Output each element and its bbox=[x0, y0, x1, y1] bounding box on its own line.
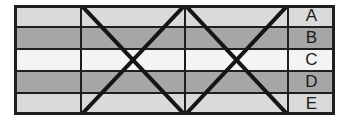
band-fill-layer bbox=[14, 5, 335, 115]
band-label-c: C bbox=[305, 50, 317, 69]
band-label-a: A bbox=[306, 6, 318, 25]
band-c bbox=[14, 49, 335, 71]
band-b bbox=[14, 27, 335, 49]
band-d bbox=[14, 71, 335, 93]
band-label-d: D bbox=[305, 72, 317, 91]
diagram-canvas: ABCDE bbox=[0, 0, 349, 121]
diagram-svg: ABCDE bbox=[14, 5, 335, 115]
band-label-b: B bbox=[306, 28, 317, 47]
banded-grid-figure: ABCDE bbox=[14, 5, 335, 115]
band-label-e: E bbox=[306, 94, 317, 113]
band-label-layer: ABCDE bbox=[305, 6, 317, 113]
